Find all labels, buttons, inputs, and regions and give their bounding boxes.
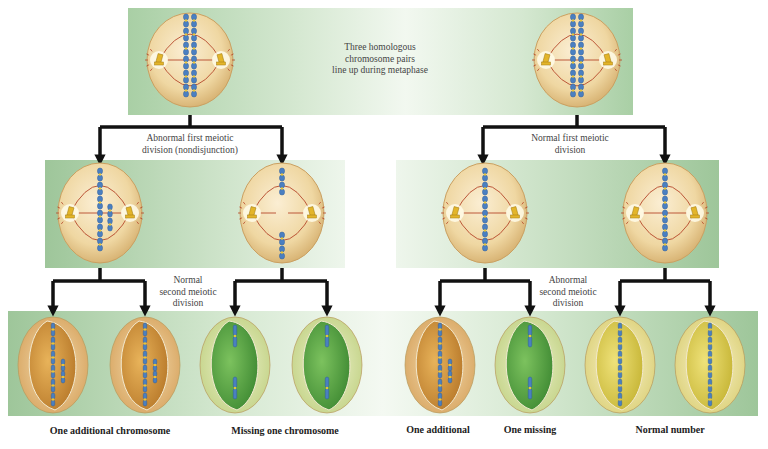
gamete-missing-6 [495,317,565,413]
caption-one-additional-chromosome: One additional chromosome [40,425,180,436]
caption-missing-one-chromosome: Missing one chromosome [215,425,355,436]
gamete-extra-1 [18,317,88,413]
fork-left-a-second-division [53,268,145,311]
intermediate-cell-nondisjunction-missing [238,163,326,263]
caption-one-additional: One additional [398,424,478,435]
fork-right-b-second-division [620,268,710,311]
caption-normal-number: Normal number [620,424,720,435]
intermediate-cell-nondisjunction-extra [56,163,144,263]
intermediate-cell-normal-a [441,163,529,263]
gamete-extra-5 [405,317,475,413]
gamete-normal-8 [675,317,745,413]
gamete-normal-7 [585,317,655,413]
metaphase-label: Three homologous chromosome pairs line u… [300,42,460,77]
fork-right-a-second-division [440,268,530,311]
right-second-division-label: Abnormal second meiotic division [528,275,608,310]
gamete-missing-4 [292,317,362,413]
gamete-missing-3 [200,317,270,413]
gamete-extra-2 [110,317,180,413]
parent-cell-left [145,13,235,107]
right-first-division-label: Normal first meiotic division [500,133,640,156]
fork-left-b-second-division [235,268,327,311]
left-first-division-label: Abnormal first meiotic division (nondisj… [120,133,260,156]
left-second-division-label: Normal second meiotic division [148,275,228,310]
parent-cell-right [532,13,622,107]
caption-one-missing: One missing [490,424,570,435]
intermediate-cell-normal-b [621,163,709,263]
